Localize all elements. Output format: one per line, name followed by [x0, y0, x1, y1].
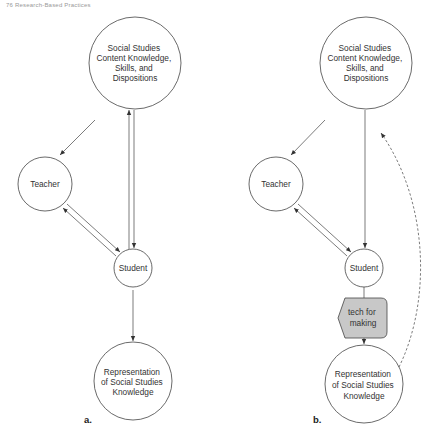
teacher-label: Teacher — [30, 179, 60, 189]
student-label: Student — [350, 263, 379, 273]
arrow-content-to-teacher — [291, 120, 325, 155]
arrow-student-to-teacher — [63, 208, 116, 256]
diagram-b: Social Studies Content Knowledge, Skills… — [249, 17, 421, 425]
student-label: Student — [119, 263, 148, 273]
arrow-student-to-teacher — [294, 208, 347, 256]
arrow-teacher-to-student — [298, 204, 351, 252]
concept-diagrams: Social Studies Content Knowledge, Skills… — [0, 0, 442, 440]
arrow-content-to-teacher — [60, 120, 95, 155]
arrow-teacher-to-student — [67, 204, 120, 252]
caption-b: b. — [313, 414, 321, 425]
teacher-label: Teacher — [261, 179, 291, 189]
caption-a: a. — [84, 414, 92, 425]
tech-for-making-label: tech for making — [348, 307, 378, 328]
diagram-a: Social Studies Content Knowledge, Skills… — [18, 17, 181, 425]
